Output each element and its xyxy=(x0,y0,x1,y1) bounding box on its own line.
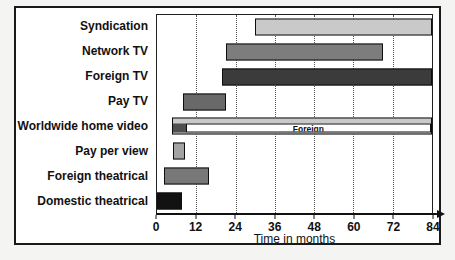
chart-frame: SyndicationNetwork TVForeign TVPay TVWor… xyxy=(14,6,441,245)
x-tick-24 xyxy=(235,215,236,219)
bar-worldwide-home-video: Foreign xyxy=(172,118,432,135)
screenshot-root: { "figure": { "background": "#f4f4f2", "… xyxy=(0,0,455,260)
bar-pay-per-view xyxy=(173,143,184,160)
x-tick-12 xyxy=(195,215,196,219)
x-tick-0 xyxy=(156,215,157,219)
bar-segment-foreign: Foreign xyxy=(186,124,431,133)
bar-segment-lead xyxy=(173,124,186,133)
row-label-domestic-theatrical: Domestic theatrical xyxy=(37,194,148,208)
bar-foreign-theatrical xyxy=(164,167,210,184)
bar-pay-tv xyxy=(183,93,226,110)
bar-foreign-tv xyxy=(222,68,432,85)
x-tick-36 xyxy=(274,215,275,219)
plot-area: Foreign xyxy=(156,14,433,213)
row-label-pay-tv: Pay TV xyxy=(108,94,148,108)
bar-syndication xyxy=(255,19,432,36)
x-axis-arrow-icon xyxy=(437,210,445,218)
row-label-syndication: Syndication xyxy=(80,19,148,33)
bar-domestic-theatrical xyxy=(157,192,182,209)
x-tick-60 xyxy=(353,215,354,219)
row-labels: SyndicationNetwork TVForeign TVPay TVWor… xyxy=(16,14,156,213)
gridline-72 xyxy=(393,15,394,213)
x-tick-48 xyxy=(314,215,315,219)
x-axis-title: Time in months xyxy=(156,232,433,246)
row-label-foreign-tv: Foreign TV xyxy=(85,69,148,83)
bar-network-tv xyxy=(226,44,383,61)
row-label-pay-per-view: Pay per view xyxy=(75,144,148,158)
x-tick-84 xyxy=(433,215,434,219)
row-label-network-tv: Network TV xyxy=(82,44,148,58)
row-label-foreign-theatrical: Foreign theatrical xyxy=(47,169,148,183)
x-tick-72 xyxy=(393,215,394,219)
row-label-worldwide-home-video: Worldwide home video xyxy=(18,119,148,133)
